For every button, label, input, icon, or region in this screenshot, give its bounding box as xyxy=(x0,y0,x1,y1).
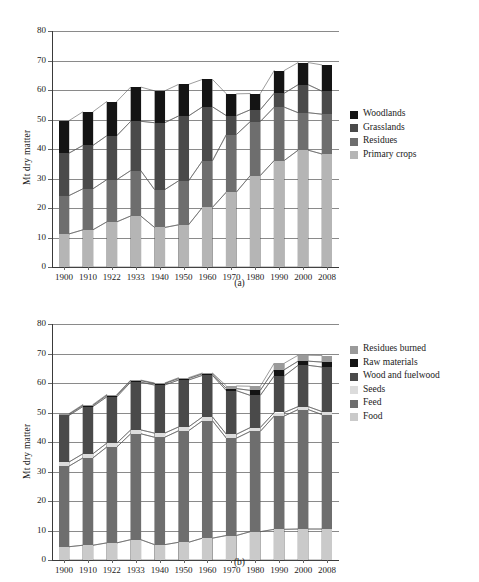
legend-item[interactable]: Raw materials xyxy=(350,357,479,369)
bar-1950[interactable] xyxy=(179,31,189,267)
bar-2008[interactable] xyxy=(322,324,332,560)
bar-segment xyxy=(274,370,284,376)
legend-item[interactable]: Woodlands xyxy=(350,108,479,120)
connector-0-8 xyxy=(260,529,274,560)
bar-segment xyxy=(107,447,117,543)
connector-1-4 xyxy=(165,431,179,545)
bar-segment xyxy=(59,462,69,466)
bar-segment xyxy=(322,362,332,367)
y-axis-line xyxy=(52,31,53,267)
y-tick-label-20: 20 xyxy=(24,495,46,505)
legend-item[interactable]: Residues xyxy=(350,135,479,147)
gridline-70 xyxy=(52,354,339,355)
legend-item[interactable]: Wood and fuelwood xyxy=(350,370,479,382)
bar-segment xyxy=(131,87,141,121)
legend-item[interactable]: Feed xyxy=(350,397,479,409)
bar-segment xyxy=(226,391,236,435)
bar-1900[interactable] xyxy=(59,324,69,560)
legend-item[interactable]: Grasslands xyxy=(350,122,479,134)
bar-segment xyxy=(298,63,308,85)
bar-segment xyxy=(107,136,117,180)
bar-segment xyxy=(250,122,260,176)
bar-segment xyxy=(274,93,284,107)
bar-1910[interactable] xyxy=(83,31,93,267)
connector-1-2 xyxy=(117,434,131,543)
bar-segment xyxy=(59,234,69,267)
bar-1990[interactable] xyxy=(274,324,284,560)
connector-4-9 xyxy=(284,361,298,376)
legend-label: Residues xyxy=(363,135,397,147)
legend-label: Woodlands xyxy=(363,108,406,120)
legend-item[interactable]: Residues burned xyxy=(350,343,479,355)
bar-1950[interactable] xyxy=(179,324,189,560)
connector-2-1 xyxy=(93,443,107,458)
bar-segment xyxy=(107,397,117,443)
chart-panel-a: Mt dry matter 01020304050607080190019101… xyxy=(0,0,479,291)
bar-1980[interactable] xyxy=(250,324,260,560)
bar-1960[interactable] xyxy=(202,31,212,267)
x-axis-line xyxy=(52,267,339,268)
bar-segment xyxy=(202,79,212,106)
bar-segment xyxy=(274,376,284,413)
legend-item[interactable]: Food xyxy=(350,411,479,423)
gridline-80 xyxy=(52,324,339,325)
connector-2-7 xyxy=(236,428,250,439)
bar-segment xyxy=(250,428,260,432)
bar-segment xyxy=(322,65,332,91)
bar-1910[interactable] xyxy=(83,324,93,560)
figure-page: Mt dry matter 01020304050607080190019101… xyxy=(0,0,479,582)
bar-segment xyxy=(202,373,212,374)
bar-segment xyxy=(226,116,236,135)
bar-segment xyxy=(179,380,189,427)
bar-segment xyxy=(83,405,93,406)
bar-1970[interactable] xyxy=(226,324,236,560)
bar-1922[interactable] xyxy=(107,324,117,560)
bar-segment xyxy=(202,417,212,421)
bar-1970[interactable] xyxy=(226,31,236,267)
bar-segment xyxy=(83,458,93,545)
x-tick-mark-2008 xyxy=(327,267,328,270)
bar-2008[interactable] xyxy=(322,31,332,267)
bar-segment xyxy=(202,375,212,417)
legend-item[interactable]: Primary crops xyxy=(350,149,479,161)
bar-1933[interactable] xyxy=(131,324,141,560)
connector-3-10 xyxy=(308,365,322,411)
legend-swatch-icon xyxy=(350,400,358,408)
gridline-70 xyxy=(52,61,339,62)
bar-1933[interactable] xyxy=(131,31,141,267)
connector-5-6 xyxy=(212,373,226,389)
bar-segment xyxy=(226,192,236,267)
connector-2-4 xyxy=(165,427,179,437)
connector-1-5 xyxy=(189,421,203,543)
connector-2-6 xyxy=(212,107,226,161)
gridline-30 xyxy=(52,472,339,473)
y-tick-label-70: 70 xyxy=(24,348,46,358)
connector-2-2 xyxy=(117,430,131,447)
bar-1990[interactable] xyxy=(274,31,284,267)
bar-1980[interactable] xyxy=(250,31,260,267)
bar-segment xyxy=(59,415,69,462)
bar-1960[interactable] xyxy=(202,324,212,560)
bar-1900[interactable] xyxy=(59,31,69,267)
bar-segment xyxy=(179,378,189,379)
bar-segment xyxy=(107,102,117,136)
bar-segment xyxy=(83,112,93,146)
y-tick-label-80: 80 xyxy=(24,318,46,328)
connector-2-0 xyxy=(69,454,83,466)
legend-item[interactable]: Seeds xyxy=(350,384,479,396)
bar-1922[interactable] xyxy=(107,31,117,267)
x-tick-mark-1922 xyxy=(112,267,113,270)
caption-b: (b) xyxy=(0,557,479,567)
connector-0-2 xyxy=(117,216,131,267)
connector-2-7 xyxy=(236,110,250,135)
y-tick-label-0: 0 xyxy=(24,261,46,271)
connector-3-7 xyxy=(236,94,250,116)
connector-0-3 xyxy=(141,216,155,267)
bar-segment xyxy=(155,227,165,267)
gridline-10 xyxy=(52,531,339,532)
bar-1940[interactable] xyxy=(155,31,165,267)
bar-1940[interactable] xyxy=(155,324,165,560)
bar-2000[interactable] xyxy=(298,324,308,560)
bar-2000[interactable] xyxy=(298,31,308,267)
bar-segment xyxy=(226,135,236,193)
